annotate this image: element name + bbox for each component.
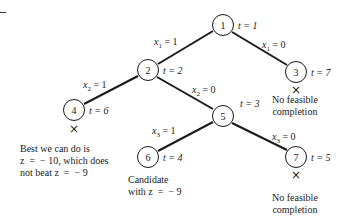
edge-5-7-label: x3 = 0: [272, 131, 296, 147]
node-7-id: 7: [294, 152, 299, 163]
node-3: 3: [285, 61, 307, 83]
node-7: 7: [285, 146, 307, 168]
node-3-id: 3: [294, 67, 299, 78]
node-2: 2: [137, 59, 159, 81]
node-4-t-label: t = 6: [89, 105, 109, 116]
node-7-note: No feasible completion: [272, 192, 318, 216]
node-7-t-label: t = 5: [311, 152, 331, 163]
node-4: 4: [63, 99, 85, 121]
node-6: 6: [137, 146, 159, 168]
node-6-note: Candidate with z = − 9: [128, 174, 182, 198]
node-1-id: 1: [221, 20, 226, 31]
node-4-pruned-icon: ×: [69, 123, 79, 135]
edge-5-6-label: x3 = 1: [152, 125, 176, 141]
edge-2-5-label: x2 = 0: [192, 84, 216, 100]
node-6-t-label: t = 4: [163, 152, 183, 163]
node-5: 5: [212, 105, 234, 127]
edge-2-4-label: x2 = 1: [83, 79, 107, 95]
edge-1-2-label: x1 = 1: [154, 36, 178, 52]
node-5-t-label: t = 3: [240, 98, 260, 109]
node-2-t-label: t = 2: [163, 65, 183, 76]
edge-1-3-label: x1 = 0: [262, 39, 286, 55]
node-7-pruned-icon: ×: [291, 169, 301, 181]
node-4-note: Best we can do is z = − 10, which does n…: [20, 143, 109, 179]
node-3-t-label: t = 7: [311, 67, 331, 78]
node-1-t-label: t = 1: [238, 20, 258, 31]
node-4-id: 4: [72, 105, 77, 116]
node-6-id: 6: [146, 152, 151, 163]
node-1: 1: [212, 14, 234, 36]
node-5-id: 5: [221, 111, 226, 122]
node-3-note: No feasible completion: [272, 94, 318, 118]
node-2-id: 2: [146, 65, 151, 76]
